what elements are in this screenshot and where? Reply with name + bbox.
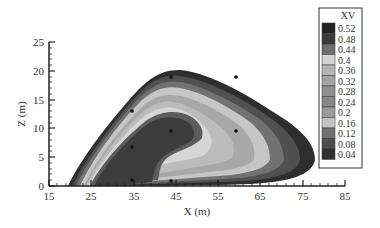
x-tick-label: 65 xyxy=(255,190,267,202)
x-tick-label: 55 xyxy=(213,190,225,202)
legend-label: 0.08 xyxy=(338,139,356,150)
legend: XV 0.52 0.48 0.44 0.4 0.36 0.32 0.28 0.2… xyxy=(319,8,362,168)
y-tick-labels: 0 5 10 15 20 25 xyxy=(33,36,45,192)
legend-label: 0.32 xyxy=(338,76,356,87)
legend-label: 0.28 xyxy=(338,86,356,97)
sample-point xyxy=(130,178,134,182)
legend-label: 0.24 xyxy=(338,97,356,108)
contour-regions xyxy=(68,70,315,186)
chart-svg: 15 25 35 45 55 65 75 85 0 5 10 15 20 25 … xyxy=(0,0,380,228)
legend-label: 0.4 xyxy=(338,55,351,66)
y-axis-label: Z (m) xyxy=(15,101,28,127)
legend-swatch xyxy=(322,86,335,97)
legend-label: 0.04 xyxy=(338,149,356,160)
legend-swatches xyxy=(322,23,335,160)
legend-swatch xyxy=(322,34,335,45)
sample-point xyxy=(234,75,238,79)
legend-swatch xyxy=(322,128,335,139)
y-tick-label: 10 xyxy=(33,122,45,134)
legend-swatch xyxy=(322,23,335,34)
x-tick-label: 35 xyxy=(129,190,141,202)
legend-swatch xyxy=(322,44,335,55)
legend-swatch xyxy=(322,97,335,108)
y-tick-label: 5 xyxy=(39,151,45,163)
x-tick-label: 15 xyxy=(44,190,56,202)
sample-point xyxy=(169,129,173,133)
legend-label: 0.44 xyxy=(338,44,356,55)
y-major-ticks xyxy=(49,42,55,186)
x-axis-label: X (m) xyxy=(184,205,211,218)
sample-point xyxy=(130,145,134,149)
sample-point xyxy=(234,129,238,133)
x-tick-label: 75 xyxy=(298,190,310,202)
legend-swatch xyxy=(322,149,335,160)
sample-point xyxy=(169,179,173,183)
legend-label: 0.16 xyxy=(338,118,356,129)
legend-title: XV xyxy=(341,10,356,21)
legend-label: 0.48 xyxy=(338,34,356,45)
legend-labels: 0.52 0.48 0.44 0.4 0.36 0.32 0.28 0.24 0… xyxy=(338,23,356,160)
x-tick-label: 45 xyxy=(171,190,183,202)
y-tick-label: 0 xyxy=(39,180,45,192)
sample-point xyxy=(169,75,173,79)
legend-swatch xyxy=(322,107,335,118)
legend-swatch xyxy=(322,55,335,66)
legend-label: 0.2 xyxy=(338,107,351,118)
legend-label: 0.12 xyxy=(338,128,356,139)
legend-swatch xyxy=(322,65,335,76)
x-tick-label: 85 xyxy=(340,190,352,202)
contour-chart: 15 25 35 45 55 65 75 85 0 5 10 15 20 25 … xyxy=(0,0,380,228)
legend-swatch xyxy=(322,76,335,87)
y-tick-label: 20 xyxy=(33,65,45,77)
legend-label: 0.36 xyxy=(338,65,356,76)
legend-swatch xyxy=(322,139,335,150)
y-tick-label: 15 xyxy=(33,94,45,106)
y-tick-label: 25 xyxy=(33,36,45,48)
x-tick-label: 25 xyxy=(86,190,98,202)
legend-label: 0.52 xyxy=(338,23,356,34)
legend-swatch xyxy=(322,118,335,129)
sample-point xyxy=(130,109,134,113)
x-tick-labels: 15 25 35 45 55 65 75 85 xyxy=(44,190,352,202)
